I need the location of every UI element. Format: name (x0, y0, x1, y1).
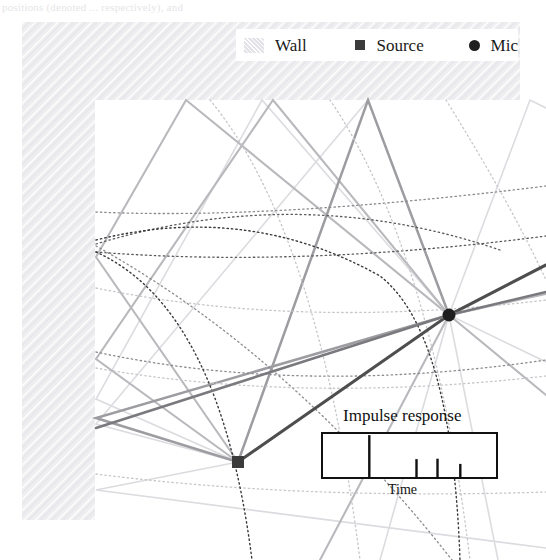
impulse-response-xlabel: Time (388, 482, 417, 498)
mic-marker (443, 309, 456, 322)
wavefront-arc-12 (96, 227, 460, 560)
wavefront-arc-13 (96, 252, 252, 560)
wavefront-arc-2 (96, 236, 546, 257)
wavefront-arc-1 (96, 214, 500, 250)
source-marker (232, 456, 244, 468)
legend-item-mic: Mic (469, 37, 518, 54)
wavefront-arc-6 (96, 368, 546, 388)
left-wall (22, 22, 95, 520)
wall-hatch-swatch-icon (244, 38, 264, 53)
legend-label-source: Source (376, 37, 423, 54)
room-acoustics-figure (0, 0, 546, 560)
legend-label-mic: Mic (491, 37, 518, 54)
impulse-response-title: Impulse response (343, 406, 462, 426)
higher-order-rays (96, 100, 546, 560)
filled-square-marker-icon (355, 40, 365, 50)
ray-path-h3 (449, 100, 546, 315)
wavefront-arcs-mid (96, 186, 546, 560)
legend-label-wall: Wall (275, 37, 307, 54)
legend-item-wall: Wall (244, 37, 307, 54)
filled-circle-marker-icon (469, 40, 480, 51)
impulse-response-inset (322, 433, 497, 478)
impulse-response-plot-box (322, 433, 497, 478)
legend: Wall Source Mic (236, 29, 518, 61)
wavefront-arcs-dark (96, 227, 460, 560)
legend-item-source: Source (355, 37, 423, 54)
